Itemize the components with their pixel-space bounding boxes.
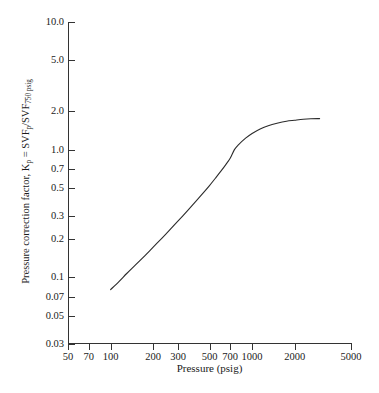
x-axis-label: Pressure (psig): [68, 362, 351, 374]
y-label-sub-1: p: [25, 160, 33, 164]
y-label-sub-2: p: [25, 126, 33, 130]
y-tick-label: 0.05: [46, 310, 64, 321]
x-tick-mark: [68, 343, 69, 350]
x-tick-label: 50: [63, 352, 74, 363]
x-tick-mark: [178, 343, 179, 350]
x-tick-label: 1000: [242, 352, 263, 363]
x-tick-label: 700: [222, 352, 238, 363]
y-tick-label: 2.0: [51, 106, 64, 117]
chart-figure: 0.030.050.070.10.20.30.50.71.02.05.010.0…: [0, 0, 379, 393]
x-tick-label: 100: [103, 352, 119, 363]
x-tick-mark: [210, 343, 211, 350]
y-label-slash: /SVF: [20, 104, 31, 126]
x-tick-label: 300: [170, 352, 186, 363]
y-tick-label: 0.03: [46, 339, 64, 350]
y-tick-label: 0.3: [51, 211, 64, 222]
y-tick-label: 0.2: [51, 234, 64, 245]
x-tick-mark: [153, 343, 154, 350]
plot-area: 0.030.050.070.10.20.30.50.71.02.05.010.0…: [68, 22, 351, 344]
x-tick-label: 2000: [284, 352, 305, 363]
x-tick-mark: [230, 343, 231, 350]
y-tick-label: 1.0: [51, 144, 64, 155]
y-axis-label: Pressure correction factor, Kp = SVFp/SV…: [20, 51, 31, 313]
y-tick-label: 5.0: [51, 55, 64, 66]
x-tick-label: 5000: [341, 352, 362, 363]
x-tick-mark: [111, 343, 112, 350]
x-tick-mark: [295, 343, 296, 350]
y-tick-label: 0.5: [51, 183, 64, 194]
y-tick-label: 0.07: [46, 292, 64, 303]
curve-svg: [68, 22, 351, 344]
y-label-prefix: Pressure correction factor, K: [20, 164, 31, 284]
x-tick-label: 70: [83, 352, 94, 363]
y-tick-label: 0.1: [51, 272, 64, 283]
x-tick-mark: [89, 343, 90, 350]
y-label-sub-3: 750 psig: [25, 79, 33, 104]
y-tick-label: 10.0: [46, 17, 64, 28]
x-tick-label: 500: [202, 352, 218, 363]
x-tick-mark: [351, 343, 352, 350]
x-tick-label: 200: [145, 352, 161, 363]
y-tick-label: 0.7: [51, 164, 64, 175]
y-label-mid: = SVF: [20, 130, 31, 160]
data-series-line: [111, 119, 320, 290]
y-tick-mark: [68, 344, 75, 345]
x-tick-mark: [252, 343, 253, 350]
